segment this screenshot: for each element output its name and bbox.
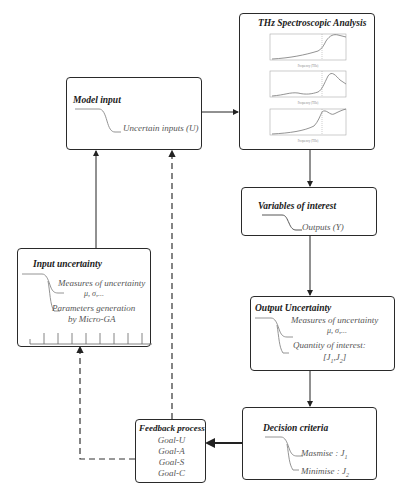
minimise-j2-label: Minimise : J2 (301, 466, 349, 478)
variables-of-interest-title: Variables of interest (258, 201, 336, 211)
distribution-ticks-icon (28, 333, 152, 347)
arrow-feedback-to-input-uncertainty-dashed (80, 347, 135, 459)
outputs-label: Outputs (Y) (302, 222, 344, 232)
quantity-of-interest-label: Quantity of interest: (293, 340, 366, 350)
parameters-generation-label: Parameters generation (52, 303, 135, 313)
spectrum-plot-2: Frequency (THz) (260, 68, 350, 106)
decision-criteria-box: Decision criteria Masmise : J1 Minimise … (242, 407, 377, 480)
decision-criteria-title: Decision criteria (263, 423, 328, 433)
mu-sigma-label: μ, σ,... (84, 289, 104, 298)
spectrum-plot-1: Frequency (THz) (260, 31, 350, 69)
spectrum-plot-3: Frequency (THz) (260, 106, 350, 144)
input-uncertainty-box: Input uncertainty Measures of uncertaint… (17, 248, 151, 347)
svg-text:Frequency (THz): Frequency (THz) (298, 139, 319, 143)
mu-sigma-label: μ, σ,... (327, 326, 347, 335)
goal-a-label: Goal-A (136, 446, 207, 456)
feedback-process-title: Feedback process (139, 423, 205, 433)
output-uncertainty-box: Output Uncertainty Measures of uncertain… (250, 296, 395, 371)
model-input-title: Model input (73, 95, 121, 105)
variables-of-interest-box: Variables of interest Outputs (Y) (241, 187, 377, 236)
model-input-box: Model input Uncertain inputs (U) (66, 77, 202, 150)
output-uncertainty-title: Output Uncertainty (255, 303, 331, 313)
feedback-process-box: Feedback process Goal-U Goal-A Goal-S Go… (135, 419, 206, 483)
thz-analysis-box: THz Spectroscopic Analysis Frequency (TH… (239, 13, 375, 150)
goal-u-label: Goal-U (136, 435, 207, 445)
j1-j2-label: [J1,J2] (323, 352, 346, 364)
maximise-j1-label: Masmise : J1 (301, 448, 348, 460)
goal-s-label: Goal-S (136, 457, 207, 467)
micro-ga-label: by Micro-GA (68, 314, 115, 324)
input-uncertainty-title: Input uncertainty (33, 259, 102, 269)
svg-text:Frequency (THz): Frequency (THz) (298, 101, 319, 105)
thz-analysis-title: THz Spectroscopic Analysis (258, 18, 366, 28)
measures-of-uncertainty-label: Measures of uncertainty (58, 278, 145, 288)
measures-of-uncertainty-label: Measures of uncertainty (291, 315, 378, 325)
uncertain-inputs-label: Uncertain inputs (U) (123, 123, 199, 133)
goal-c-label: Goal-C (136, 468, 207, 478)
